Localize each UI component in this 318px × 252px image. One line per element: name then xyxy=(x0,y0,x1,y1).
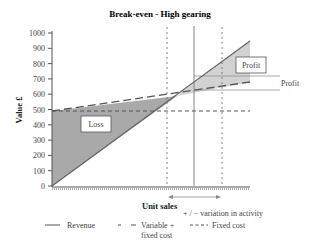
profit-side-label: Profit xyxy=(281,79,300,88)
y-ticks: 0 100 200 300 400 500 600 700 800 900 10… xyxy=(29,29,52,191)
legend-revenue-label: Revenue xyxy=(67,221,95,230)
svg-text:400: 400 xyxy=(33,121,45,130)
activity-range-arrow xyxy=(168,195,221,199)
svg-text:1000: 1000 xyxy=(29,29,45,38)
svg-text:900: 900 xyxy=(33,44,45,53)
svg-text:300: 300 xyxy=(33,136,45,145)
legend-total-cost-label-line1: Variable + xyxy=(141,221,175,230)
y-axis-label: Value £ xyxy=(14,97,24,124)
svg-text:0: 0 xyxy=(41,182,45,191)
loss-label: Loss xyxy=(88,120,103,129)
svg-text:700: 700 xyxy=(33,75,45,84)
profit-box-label: Profit xyxy=(242,61,261,70)
break-even-chart: Break-even - High gearing 0 100 200 300 … xyxy=(0,0,318,252)
svg-text:500: 500 xyxy=(33,106,45,115)
chart-title: Break-even - High gearing xyxy=(109,9,211,19)
legend-total-cost-label-line2: fixed cost xyxy=(141,231,173,240)
svg-text:100: 100 xyxy=(33,167,45,176)
legend-fixed-cost-label: Fixed cost xyxy=(212,221,246,230)
svg-text:800: 800 xyxy=(33,60,45,69)
legend: Revenue Variable + fixed cost Fixed cost xyxy=(45,221,246,240)
activity-label: + / − variation in activity xyxy=(183,209,263,218)
x-axis-label: Unit sales xyxy=(142,201,178,211)
svg-text:200: 200 xyxy=(33,151,45,160)
svg-text:600: 600 xyxy=(33,90,45,99)
